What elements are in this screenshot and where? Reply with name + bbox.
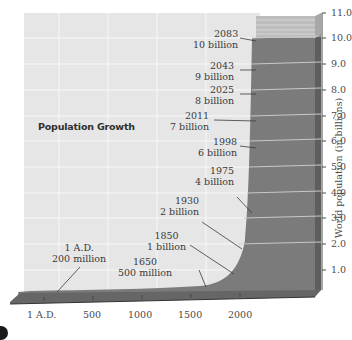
annotation-1998: 1998 6 billion — [198, 136, 237, 158]
y-tick: 11.0 — [331, 7, 352, 18]
y-tick: 10.0 — [331, 32, 352, 43]
annotation-2083: 2083 10 billion — [193, 28, 238, 50]
annotation-value: 6 billion — [198, 147, 237, 158]
annotation-value: 500 million — [118, 267, 172, 278]
x-tick: 2000 — [228, 309, 252, 320]
annotation-1930: 1930 2 billion — [160, 195, 199, 217]
annotation-year: 2083 — [193, 28, 238, 39]
future-projection-bands — [256, 16, 315, 38]
chart-title: Population Growth — [38, 121, 135, 132]
annotation-1850: 1850 1 billion — [147, 230, 186, 252]
area-side-face — [315, 34, 321, 295]
y-tick: 1.0 — [331, 264, 346, 275]
annotation-year: 2011 — [170, 110, 209, 121]
annotation-value: 4 billion — [195, 176, 234, 187]
annotation-value: 8 billion — [195, 95, 234, 106]
annotation-1975: 1975 4 billion — [195, 165, 234, 187]
y-axis-ticks — [322, 13, 326, 270]
annotation-year: 1975 — [195, 165, 234, 176]
annotation-year: 1930 — [160, 195, 199, 206]
annotation-value: 2 billion — [160, 206, 199, 217]
annotation-1ad: 1 A.D. 200 million — [52, 242, 106, 264]
annotation-2011: 2011 7 billion — [170, 110, 209, 132]
annotation-year: 1 A.D. — [52, 242, 106, 253]
x-tick: 1000 — [128, 309, 152, 320]
annotation-year: 1650 — [118, 256, 172, 267]
annotation-2043: 2043 9 billion — [195, 60, 234, 82]
annotation-value: 1 billion — [147, 241, 186, 252]
page-corner-mark — [0, 326, 8, 340]
y-tick: 9.0 — [331, 58, 346, 69]
annotation-year: 2025 — [195, 84, 234, 95]
annotation-value: 200 million — [52, 253, 106, 264]
x-tick: 1500 — [178, 309, 202, 320]
annotation-value: 9 billion — [195, 71, 234, 82]
y-axis-label: World population (in billions) — [333, 98, 344, 238]
annotation-year: 1850 — [147, 230, 186, 241]
annotation-value: 10 billion — [193, 39, 238, 50]
annotation-2025: 2025 8 billion — [195, 84, 234, 106]
y-tick: 2.0 — [331, 238, 346, 249]
annotation-1650: 1650 500 million — [118, 256, 172, 278]
y-tick: 8.0 — [331, 84, 346, 95]
annotation-year: 1998 — [198, 136, 237, 147]
annotation-year: 2043 — [195, 60, 234, 71]
annotation-value: 7 billion — [170, 121, 209, 132]
x-tick: 500 — [83, 309, 101, 320]
x-tick: 1 A.D. — [27, 309, 56, 320]
